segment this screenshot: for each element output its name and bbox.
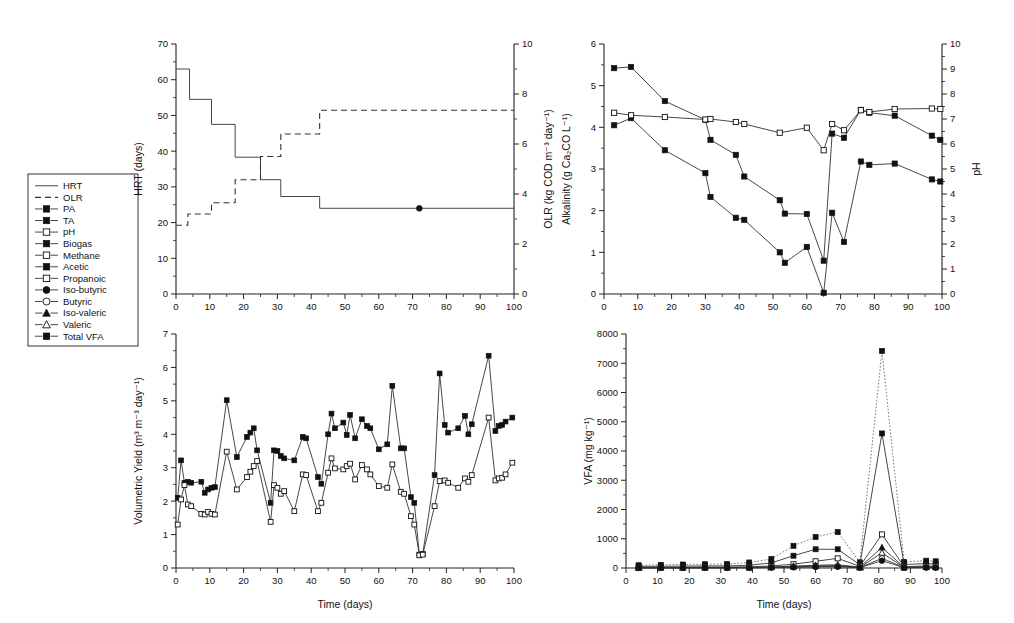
- data-point-marker: [703, 171, 708, 176]
- data-point-marker: [733, 215, 738, 220]
- y2-tick-label: 6: [950, 138, 955, 149]
- y2-tick-label: 7: [950, 113, 955, 124]
- legend-item-label: Methane: [63, 250, 100, 261]
- data-point-marker: [938, 179, 943, 184]
- series-total-vfa: [636, 348, 938, 567]
- data-point-marker: [304, 473, 309, 478]
- y2-tick-label: 8: [522, 88, 527, 99]
- panel-volumetric-yield: 010203040506070809010001234567Volumetric…: [132, 328, 522, 610]
- data-point-marker: [510, 460, 515, 465]
- data-point-marker: [702, 565, 708, 571]
- data-point-marker: [329, 411, 334, 416]
- data-point-marker: [412, 500, 417, 505]
- legend-item-label: TA: [63, 215, 75, 226]
- x-tick-label: 10: [205, 301, 216, 312]
- data-point-marker: [703, 117, 708, 122]
- x-tick-label: 100: [934, 575, 950, 586]
- data-point-marker: [612, 110, 617, 115]
- data-point-marker: [245, 475, 250, 480]
- x-tick-label: 100: [506, 301, 522, 312]
- data-point-marker: [368, 472, 373, 477]
- data-point-marker: [782, 260, 787, 265]
- data-point-marker: [628, 64, 633, 69]
- x-tick-label: 70: [407, 575, 418, 586]
- data-point-marker: [938, 106, 943, 111]
- data-point-marker: [708, 194, 713, 199]
- data-point-marker: [835, 564, 841, 570]
- data-point-marker: [892, 106, 897, 111]
- x-tick-label: 90: [905, 575, 916, 586]
- data-point-marker: [319, 481, 324, 486]
- data-point-marker: [282, 456, 287, 461]
- y-tick-label: 30: [157, 181, 168, 192]
- panel-vfa: 0102030405060708090100010002000300040005…: [582, 328, 950, 610]
- data-point-marker: [255, 459, 260, 464]
- data-point-marker: [658, 565, 664, 571]
- data-point-marker: [813, 547, 818, 552]
- data-point-marker: [348, 461, 353, 466]
- data-point-marker: [929, 177, 934, 182]
- data-point-marker: [879, 348, 884, 353]
- data-point-marker: [360, 463, 365, 468]
- data-point-marker: [446, 480, 451, 485]
- x-tick-label: 60: [810, 575, 821, 586]
- series-legend[interactable]: HRTOLRPATApHBiogasMethaneAceticPropanoic…: [28, 174, 138, 346]
- legend-item-label: Total VFA: [63, 331, 104, 342]
- y-tick-label: 3: [163, 462, 168, 473]
- y-tick-label: 5000: [597, 416, 618, 427]
- data-point-marker: [390, 383, 395, 388]
- data-point-marker: [486, 353, 491, 358]
- x-tick-label: 80: [874, 575, 885, 586]
- legend-item-label: pH: [63, 226, 75, 237]
- data-point-marker: [933, 565, 939, 571]
- data-point-marker: [879, 558, 885, 564]
- y2-tick-label: 5: [950, 163, 955, 174]
- data-point-marker: [43, 275, 49, 281]
- data-point-marker: [282, 489, 287, 494]
- y2-tick-label: 0: [950, 288, 955, 299]
- data-point-marker: [777, 130, 782, 135]
- data-point-marker: [442, 423, 447, 428]
- y2-tick-label: 2: [950, 238, 955, 249]
- data-point-marker: [929, 133, 934, 138]
- x-tick-label: 50: [340, 301, 351, 312]
- data-point-marker: [628, 113, 633, 118]
- x-tick-label: 80: [869, 301, 880, 312]
- data-point-marker: [742, 174, 747, 179]
- data-point-marker: [742, 121, 747, 126]
- data-point-marker: [43, 252, 49, 258]
- data-point-marker: [365, 467, 370, 472]
- y2-axis-title: pH: [970, 162, 982, 175]
- y-tick-label: 0: [613, 562, 618, 573]
- y-tick-label: 3000: [597, 475, 618, 486]
- x-tick-label: 100: [506, 575, 522, 586]
- series-acetic: [636, 431, 938, 569]
- x-tick-label: 50: [768, 301, 779, 312]
- series-path: [639, 433, 936, 566]
- data-point-marker: [841, 135, 846, 140]
- data-point-marker: [275, 449, 280, 454]
- legend-item-label: HRT: [63, 180, 83, 191]
- data-point-marker: [368, 426, 373, 431]
- x-tick-label: 40: [306, 575, 317, 586]
- y2-tick-label: 10: [950, 38, 961, 49]
- data-point-marker: [43, 286, 50, 293]
- legend-item-label: Iso-butyric: [63, 284, 107, 295]
- y-tick-label: 2: [163, 496, 168, 507]
- x-tick-label: 0: [601, 301, 606, 312]
- data-point-marker: [390, 462, 395, 467]
- data-point-marker: [813, 534, 818, 539]
- data-point-marker: [612, 66, 617, 71]
- data-point-marker: [835, 547, 840, 552]
- legend-item-label: Valeric: [63, 319, 92, 330]
- series-path: [176, 69, 514, 208]
- series-path: [614, 118, 940, 293]
- data-point-marker: [376, 447, 381, 452]
- y-tick-label: 2: [591, 205, 596, 216]
- y2-tick-label: 4: [950, 188, 955, 199]
- y-tick-label: 50: [157, 110, 168, 121]
- y2-tick-label: 3: [950, 213, 955, 224]
- data-point-marker: [938, 137, 943, 142]
- data-point-marker: [662, 148, 667, 153]
- data-point-marker: [804, 211, 809, 216]
